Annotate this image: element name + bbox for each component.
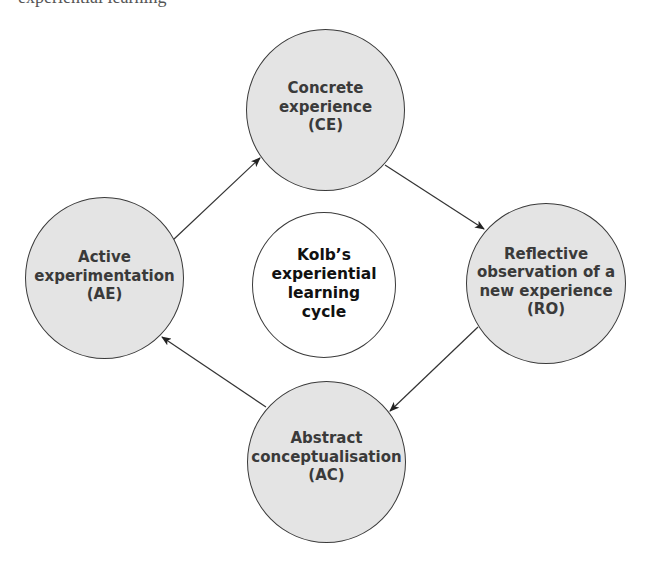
arrow-ce-to-ro: [385, 165, 484, 229]
label-line: observation of a: [477, 263, 615, 282]
arrow-ac-to-ae: [162, 337, 266, 407]
label-line: (AC): [251, 466, 401, 485]
label-line: Abstract: [251, 429, 401, 448]
node-abstract-conceptualisation: Abstract conceptualisation (AC): [247, 381, 406, 543]
node-active-experimentation: Active experimentation (AE): [25, 197, 184, 359]
node-concrete-experience: Concrete experience (CE): [246, 29, 405, 191]
node-label: Concrete experience (CE): [279, 79, 372, 135]
label-line: experience: [279, 98, 372, 117]
node-label: Abstract conceptualisation (AC): [251, 429, 401, 485]
center-label: Kolb’s experiential learning cycle: [271, 246, 376, 322]
label-line: experimentation: [34, 267, 174, 286]
label-line: Reflective: [477, 245, 615, 264]
label-line: Kolb’s: [271, 246, 376, 265]
label-line: Active: [34, 248, 174, 267]
arrow-ro-to-ac: [390, 327, 478, 411]
label-line: experiential: [271, 265, 376, 284]
node-reflective-observation: Reflective observation of a new experien…: [466, 203, 626, 364]
node-label: Active experimentation (AE): [34, 248, 174, 304]
label-line: conceptualisation: [251, 448, 401, 467]
label-line: new experience: [477, 282, 615, 301]
label-line: cycle: [271, 303, 376, 322]
node-label: Reflective observation of a new experien…: [477, 245, 615, 319]
label-line: (RO): [477, 300, 615, 319]
label-line: (AE): [34, 285, 174, 304]
arrow-ae-to-ce: [173, 158, 260, 240]
node-center-title: Kolb’s experiential learning cycle: [252, 212, 396, 358]
label-line: (CE): [279, 116, 372, 135]
label-line: learning: [271, 284, 376, 303]
label-line: Concrete: [279, 79, 372, 98]
